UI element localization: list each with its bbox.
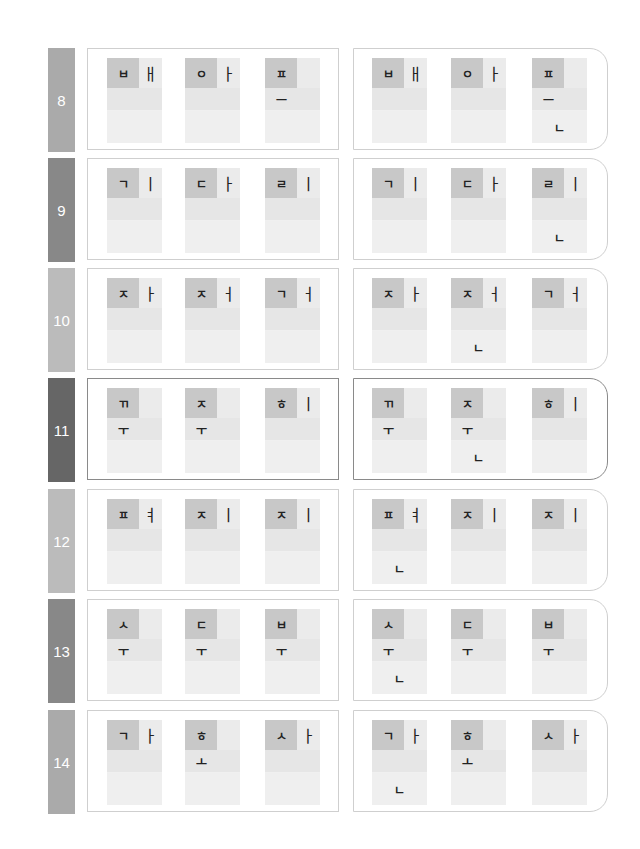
syllable-cell: ㄹ ㅣ ㄴ (532, 168, 587, 253)
final-consonant: ㄴ (372, 773, 427, 805)
vowel-right: ㅣ (297, 388, 320, 418)
vowel-right: ㅓ (297, 278, 320, 308)
vowel-right (404, 609, 427, 639)
vowel-bottom (372, 750, 404, 772)
vowel-right: ㅐ (139, 58, 162, 88)
vowel-bottom (372, 308, 404, 330)
initial-consonant: ㅂ (107, 58, 139, 88)
initial-consonant: ㄷ (451, 609, 483, 639)
exercise-row-10: 10 ㅈ ㅏ ㅈ ㅓ ㄱ ㅓ ㅈ ㅏ (0, 268, 640, 372)
initial-consonant: ㅅ (372, 609, 404, 639)
vowel-bottom: ㅜ (185, 639, 217, 661)
syllable-cell: ㅂ ㅜ (265, 609, 320, 694)
syllable-cell: ㅈ ㅣ (265, 499, 320, 584)
row-number-tab: 11 (48, 378, 75, 482)
vowel-bottom: ㅡ (265, 88, 297, 110)
syllable-cell: ㅎ ㅣ (532, 388, 587, 473)
initial-consonant: ㄹ (532, 168, 564, 198)
final-consonant (265, 552, 320, 584)
final-consonant (451, 221, 506, 253)
vowel-bottom: ㅗ (451, 750, 483, 772)
initial-consonant: ㄲ (372, 388, 404, 418)
syllable-cell: ㅎ ㅗ (451, 720, 506, 805)
vowel-bottom (532, 418, 564, 440)
syllable-cell: ㅅ ㅏ (532, 720, 587, 805)
row-number-tab: 10 (48, 268, 75, 372)
vowel-right: ㅣ (297, 168, 320, 198)
vowel-bottom: ㅜ (107, 639, 139, 661)
vowel-right (297, 58, 320, 88)
initial-consonant: ㅈ (451, 278, 483, 308)
syllable-panel-with-final: ㄲ ㅜ ㅈ ㅜ ㄴ ㅎ ㅣ (353, 378, 608, 480)
vowel-right (217, 609, 240, 639)
vowel-right: ㅣ (297, 499, 320, 529)
vowel-bottom (532, 308, 564, 330)
initial-consonant: ㄷ (451, 168, 483, 198)
initial-consonant: ㅍ (372, 499, 404, 529)
vowel-right (139, 609, 162, 639)
vowel-bottom (265, 750, 297, 772)
syllable-cell: ㄱ ㅓ (265, 278, 320, 363)
vowel-right: ㅏ (404, 720, 427, 750)
vowel-right (483, 720, 506, 750)
final-consonant (107, 221, 162, 253)
syllable-panel-with-final: ㄱ ㅣ ㄷ ㅏ ㄹ ㅣ ㄴ (353, 158, 608, 260)
final-consonant (185, 441, 240, 473)
vowel-right: ㅏ (564, 720, 587, 750)
vowel-right (217, 720, 240, 750)
final-consonant (265, 111, 320, 143)
vowel-right: ㅏ (139, 720, 162, 750)
initial-consonant: ㅈ (185, 278, 217, 308)
vowel-right: ㅏ (217, 58, 240, 88)
syllable-cell: ㄲ ㅜ (107, 388, 162, 473)
vowel-right: ㅣ (483, 499, 506, 529)
initial-consonant: ㄱ (372, 720, 404, 750)
syllable-cell: ㄱ ㅏ ㄴ (372, 720, 427, 805)
row-number-tab: 12 (48, 489, 75, 593)
initial-consonant: ㄱ (107, 168, 139, 198)
syllable-cell: ㄱ ㅣ (372, 168, 427, 253)
exercise-row-8: 8 ㅂ ㅐ ㅇ ㅏ ㅍ ㅡ ㅂ ㅐ (0, 48, 640, 152)
final-consonant (372, 221, 427, 253)
initial-consonant: ㅈ (265, 499, 297, 529)
syllable-cell: ㅅ ㅏ (265, 720, 320, 805)
final-consonant (107, 441, 162, 473)
syllable-cell: ㅈ ㅜ ㄴ (451, 388, 506, 473)
syllable-cell: ㅂ ㅐ (372, 58, 427, 143)
initial-consonant: ㅈ (451, 499, 483, 529)
final-consonant (451, 111, 506, 143)
syllable-cell: ㄱ ㅣ (107, 168, 162, 253)
final-consonant (532, 331, 587, 363)
final-consonant (185, 662, 240, 694)
vowel-bottom: ㅜ (372, 418, 404, 440)
final-consonant (265, 221, 320, 253)
syllable-panel-before: ㄱ ㅏ ㅎ ㅗ ㅅ ㅏ (87, 710, 339, 812)
vowel-right: ㅏ (404, 278, 427, 308)
syllable-cell: ㄹ ㅣ (265, 168, 320, 253)
vowel-right: ㅏ (483, 168, 506, 198)
final-consonant (107, 552, 162, 584)
final-consonant (185, 111, 240, 143)
vowel-right: ㅐ (404, 58, 427, 88)
syllable-cell: ㅍ ㅡ ㄴ (532, 58, 587, 143)
exercise-row-14: 14 ㄱ ㅏ ㅎ ㅗ ㅅ ㅏ ㄱ ㅏ ㄴ (0, 710, 640, 814)
syllable-panel-before: ㄱ ㅣ ㄷ ㅏ ㄹ ㅣ (87, 158, 339, 260)
syllable-panel-before: ㅅ ㅜ ㄷ ㅜ ㅂ ㅜ (87, 599, 339, 701)
initial-consonant: ㅅ (265, 720, 297, 750)
syllable-cell: ㄱ ㅏ (107, 720, 162, 805)
vowel-right: ㅣ (564, 168, 587, 198)
vowel-bottom (451, 88, 483, 110)
initial-consonant: ㅈ (185, 388, 217, 418)
initial-consonant: ㅂ (372, 58, 404, 88)
initial-consonant: ㅈ (451, 388, 483, 418)
vowel-bottom: ㅜ (532, 639, 564, 661)
initial-consonant: ㅂ (265, 609, 297, 639)
final-consonant (532, 441, 587, 473)
exercise-row-13: 13 ㅅ ㅜ ㄷ ㅜ ㅂ ㅜ ㅅ ㅜ ㄴ (0, 599, 640, 703)
final-consonant (451, 773, 506, 805)
syllable-cell: ㅈ ㅜ (185, 388, 240, 473)
vowel-bottom: ㅡ (532, 88, 564, 110)
final-consonant (532, 662, 587, 694)
initial-consonant: ㄱ (372, 168, 404, 198)
syllable-cell: ㄲ ㅜ (372, 388, 427, 473)
